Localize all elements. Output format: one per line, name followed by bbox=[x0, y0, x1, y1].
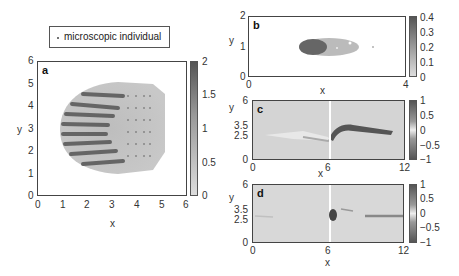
panel-label-c: c bbox=[257, 103, 263, 115]
panel-b-xlabel: x bbox=[320, 85, 325, 96]
panel-label-a: a bbox=[42, 64, 48, 76]
panel-d-xlabel: x bbox=[325, 257, 330, 268]
panel-label-d: d bbox=[257, 187, 264, 199]
panel-a-xlabel: x bbox=[110, 218, 115, 229]
panel-a-plot: a bbox=[37, 61, 187, 196]
colorbar-a bbox=[190, 61, 198, 196]
panel-label-b: b bbox=[253, 19, 260, 31]
panel-c-ylabel: y bbox=[229, 102, 234, 113]
panel-b-plot: b bbox=[248, 16, 406, 77]
panel-c-xlabel: x bbox=[318, 168, 323, 179]
legend-label: microscopic individual bbox=[64, 31, 161, 42]
colorbar-d bbox=[409, 184, 417, 243]
panel-a-ylabel: y bbox=[17, 124, 22, 135]
individual-marker-icon bbox=[57, 37, 59, 39]
panel-c-plot: c bbox=[252, 100, 405, 160]
panel-b-ylabel: y bbox=[229, 35, 234, 46]
colorbar-b bbox=[409, 16, 417, 77]
legend: microscopic individual bbox=[49, 26, 170, 48]
colorbar-c bbox=[409, 100, 417, 160]
panel-d-ylabel: y bbox=[229, 192, 234, 203]
panel-d-plot: d bbox=[252, 184, 404, 243]
